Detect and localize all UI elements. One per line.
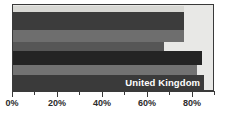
x-axis-major-tick [57,91,58,97]
x-axis-major-tick [147,91,148,97]
bar[interactable] [13,42,164,51]
x-axis-major-tick [12,91,13,97]
bar-row [13,12,213,30]
x-axis-major-tick [102,91,103,97]
x-axis-tick-label: 20% [48,99,66,108]
x-axis-minor-tick [79,91,80,95]
bar[interactable]: United Kingdom [13,75,204,91]
x-axis-tick-label: 0% [5,99,18,108]
x-axis-major-tick [192,91,193,97]
bar-row [13,65,213,75]
x-axis-minor-tick [214,91,215,95]
bar-row [13,51,213,65]
bar[interactable] [13,12,184,30]
bar[interactable] [13,30,184,42]
bar-chart: United Kingdom 0%20%40%60%80% [0,0,231,123]
x-axis-minor-tick [34,91,35,95]
bar-row [13,42,213,51]
x-axis-minor-tick [124,91,125,95]
x-axis-tick-label: 80% [183,99,201,108]
bar-row [13,30,213,42]
x-axis-minor-tick [169,91,170,95]
bar-label-united-kingdom: United Kingdom [125,78,200,88]
x-axis-tick-label: 40% [93,99,111,108]
bar[interactable] [13,65,197,75]
plot-area: United Kingdom [12,4,214,91]
x-axis-tick-label: 60% [138,99,156,108]
bar-row: United Kingdom [13,75,213,91]
bar[interactable] [13,51,202,65]
x-axis-line [12,91,214,92]
